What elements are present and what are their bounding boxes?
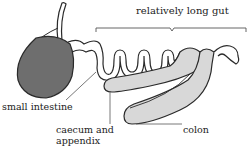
label-relatively-long-gut: relatively long gut — [136, 5, 229, 16]
label-colon: colon — [183, 124, 209, 135]
herbivore-gut-diagram: relatively long gut small intestine caec… — [0, 0, 248, 152]
stomach — [17, 36, 73, 98]
label-small-intestine: small intestine — [2, 101, 73, 112]
label-caecum-and-appendix: caecum and appendix — [56, 124, 114, 146]
gut-illustration — [0, 0, 248, 152]
gut-bracket — [96, 28, 246, 32]
oesophagus — [57, 3, 66, 42]
